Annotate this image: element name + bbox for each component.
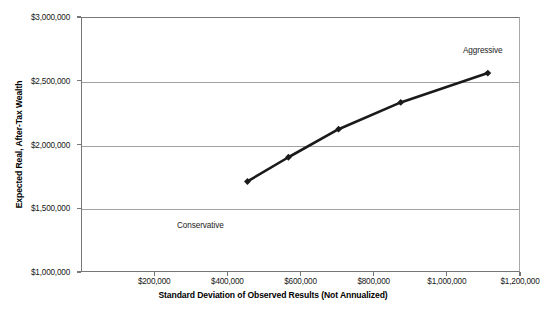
y-axis-tickmark <box>77 80 81 81</box>
y-axis-tickmark <box>77 208 81 209</box>
gridline <box>82 209 519 210</box>
y-axis-tickmark <box>77 16 81 17</box>
x-axis-tick-label: $1,200,000 <box>501 277 540 286</box>
x-axis-tick-label: $800,000 <box>357 277 390 286</box>
y-axis-tick-label: $3,000,000 <box>31 13 70 22</box>
x-axis-tickmark <box>446 272 447 276</box>
y-axis-title: Expected Real, After-Tax Wealth <box>11 17 28 272</box>
y-axis-tick-label: $2,000,000 <box>31 140 70 149</box>
x-axis-tick-labels: $200,000$400,000$600,000$800,000$1,000,0… <box>0 274 546 290</box>
x-axis-tick-label: $400,000 <box>211 277 244 286</box>
x-axis-tickmark <box>519 272 520 276</box>
chart-annotation-label: Aggressive <box>463 46 503 55</box>
y-axis-tickmark <box>77 144 81 145</box>
x-axis-tickmark <box>300 272 301 276</box>
x-axis-tickmark <box>154 272 155 276</box>
x-axis-tickmark <box>373 272 374 276</box>
chart-container: $1,000,000$1,500,000$2,000,000$2,500,000… <box>0 0 546 315</box>
x-axis-tick-label: $200,000 <box>138 277 171 286</box>
y-axis-tick-label: $2,500,000 <box>31 76 70 85</box>
x-axis-title: Standard Deviation of Observed Results (… <box>0 290 546 300</box>
gridline <box>82 146 519 147</box>
x-axis-tick-label: $1,000,000 <box>427 277 466 286</box>
x-axis-tick-label: $600,000 <box>284 277 317 286</box>
plot-area <box>81 17 520 272</box>
x-axis-tickmark <box>227 272 228 276</box>
y-axis-tick-label: $1,500,000 <box>31 204 70 213</box>
gridline <box>82 82 519 83</box>
y-axis-tickmark <box>77 271 81 272</box>
chart-annotation-label: Conservative <box>177 221 224 230</box>
